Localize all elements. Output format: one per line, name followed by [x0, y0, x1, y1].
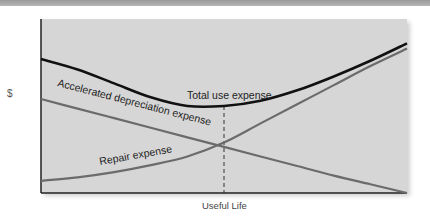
chart-svg: Total use expense Accelerated depreciati…: [0, 0, 430, 217]
x-axis-label: Useful Life: [202, 200, 247, 211]
y-axis-label: $: [7, 88, 13, 99]
label-total-use-expense: Total use expense: [187, 89, 272, 101]
